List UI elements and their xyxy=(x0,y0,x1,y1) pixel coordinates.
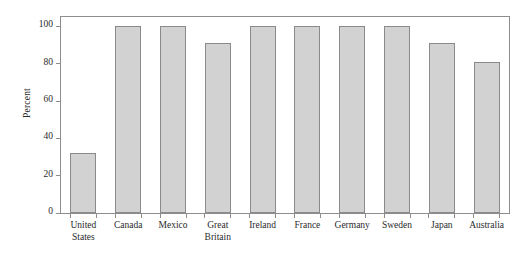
x-axis-tick-mark xyxy=(320,213,321,218)
bar xyxy=(429,43,455,213)
bar-slot xyxy=(474,17,500,213)
y-axis-tick-label: 40 xyxy=(44,131,54,141)
x-axis-tick-mark xyxy=(473,213,474,218)
x-axis-tick-mark xyxy=(186,213,187,218)
y-axis-tick-mark xyxy=(56,63,60,64)
x-axis-label: Sweden xyxy=(375,220,420,232)
x-axis-label: Ireland xyxy=(240,220,285,232)
bar xyxy=(474,62,500,213)
y-axis-tick-mark xyxy=(56,138,60,139)
x-axis-tick-mark xyxy=(365,213,366,218)
y-axis-tick-label: 60 xyxy=(44,94,54,104)
y-axis-tick-label: 80 xyxy=(44,57,54,67)
x-axis-label-line: United xyxy=(61,220,106,232)
bar-chart: Percent 020406080100 UnitedStatesCanadaM… xyxy=(0,0,530,256)
bar xyxy=(205,43,231,213)
bar xyxy=(294,26,320,213)
bar-slot xyxy=(429,17,455,213)
x-axis-tick-mark xyxy=(160,213,161,218)
x-axis-tick-mark xyxy=(230,213,231,218)
x-axis-label-line: France xyxy=(285,220,330,232)
x-axis-tick-mark xyxy=(275,213,276,218)
x-axis-tick-mark xyxy=(204,213,205,218)
bar-slot xyxy=(250,17,276,213)
x-axis-label: Japan xyxy=(419,220,464,232)
x-axis-label-line: Australia xyxy=(464,220,509,232)
y-axis-title: Percent xyxy=(22,73,32,133)
y-axis-tick-label: 0 xyxy=(48,206,53,216)
x-axis-tick-mark xyxy=(70,213,71,218)
x-axis-tick-mark xyxy=(96,213,97,218)
x-axis-label: Germany xyxy=(330,220,375,232)
x-axis-label-line: Mexico xyxy=(151,220,196,232)
x-axis-label: Canada xyxy=(106,220,151,232)
bar-slot xyxy=(70,17,96,213)
x-axis-tick-mark xyxy=(294,213,295,218)
x-axis-label-line: Britain xyxy=(195,232,240,244)
y-axis-tick-mark xyxy=(56,101,60,102)
bar xyxy=(339,26,365,213)
bar xyxy=(384,26,410,213)
x-axis-tick-mark xyxy=(115,213,116,218)
bar-slot xyxy=(294,17,320,213)
x-axis-label: Mexico xyxy=(151,220,196,232)
bar-slot xyxy=(160,17,186,213)
x-axis-label: UnitedStates xyxy=(61,220,106,243)
x-axis-label-line: Sweden xyxy=(375,220,420,232)
x-axis-label: Australia xyxy=(464,220,509,232)
x-axis-tick-mark xyxy=(454,213,455,218)
y-axis-tick-mark xyxy=(56,26,60,27)
y-axis-tick-label: 100 xyxy=(39,19,53,29)
x-axis-tick-mark xyxy=(249,213,250,218)
y-axis-tick-label: 20 xyxy=(44,169,54,179)
x-axis-label-line: Great xyxy=(195,220,240,232)
x-axis-tick-mark xyxy=(428,213,429,218)
bar-slot xyxy=(115,17,141,213)
y-axis-tick-mark xyxy=(56,175,60,176)
x-axis-labels: UnitedStatesCanadaMexicoGreatBritainIrel… xyxy=(60,220,510,254)
y-axis-tick-mark xyxy=(56,213,60,214)
bar xyxy=(160,26,186,213)
x-axis-label-line: States xyxy=(61,232,106,244)
x-axis-label: GreatBritain xyxy=(195,220,240,243)
x-axis-tick-mark xyxy=(141,213,142,218)
bar-series xyxy=(61,17,509,213)
x-axis-label-line: Japan xyxy=(419,220,464,232)
bar-slot xyxy=(205,17,231,213)
bar xyxy=(250,26,276,213)
x-axis-tick-mark xyxy=(339,213,340,218)
bar xyxy=(70,153,96,213)
x-axis-tick-mark xyxy=(410,213,411,218)
bar-slot xyxy=(339,17,365,213)
bar xyxy=(115,26,141,213)
x-axis-tick-mark xyxy=(499,213,500,218)
x-axis-label-line: Canada xyxy=(106,220,151,232)
x-axis-tick-mark xyxy=(384,213,385,218)
bar-slot xyxy=(384,17,410,213)
x-axis-label: France xyxy=(285,220,330,232)
x-axis-label-line: Germany xyxy=(330,220,375,232)
x-axis-label-line: Ireland xyxy=(240,220,285,232)
